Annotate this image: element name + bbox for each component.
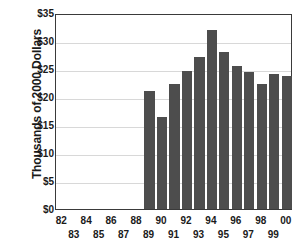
bar-slot: [143, 13, 155, 209]
bar[interactable]: [207, 30, 217, 209]
x-tick-label: 95: [211, 229, 235, 240]
x-tick-label: 94: [199, 215, 223, 226]
bar[interactable]: [257, 84, 267, 209]
x-tick-label: 98: [249, 215, 273, 226]
x-tick-label: 86: [99, 215, 123, 226]
x-tick-label: 97: [236, 229, 260, 240]
bar-slot: [206, 13, 218, 209]
bar-slot: [168, 13, 180, 209]
x-tick-label: 89: [137, 229, 161, 240]
bar-slot: [193, 13, 205, 209]
x-tick-label: 92: [174, 215, 198, 226]
x-tick-label: 96: [224, 215, 248, 226]
x-axis-tick-labels: 82838485868788899091929394959697989900: [55, 212, 292, 249]
bar-slot: [56, 13, 68, 209]
bar[interactable]: [219, 52, 229, 209]
bar-slot: [118, 13, 130, 209]
bar-slot: [256, 13, 268, 209]
bar[interactable]: [194, 57, 204, 209]
bar-slot: [231, 13, 243, 209]
bar-slot: [156, 13, 168, 209]
bar[interactable]: [169, 84, 179, 209]
x-tick-label: 99: [261, 229, 285, 240]
x-tick-label: 82: [49, 215, 73, 226]
x-tick-label: 91: [162, 229, 186, 240]
y-tick-label: $20: [14, 93, 54, 103]
bar-slot: [268, 13, 280, 209]
bar[interactable]: [157, 117, 167, 209]
bar-slot: [281, 13, 293, 209]
x-tick-label: 93: [186, 229, 210, 240]
x-tick-label: 85: [87, 229, 111, 240]
bar-slot: [93, 13, 105, 209]
bar-slot: [106, 13, 118, 209]
y-tick-label: $25: [14, 65, 54, 75]
bar-slot: [131, 13, 143, 209]
bar-slot: [181, 13, 193, 209]
y-tick-label: $5: [14, 177, 54, 187]
y-tick-label: $0: [14, 205, 54, 215]
y-axis-tick-labels: $0$5$10$15$20$25$30$35: [14, 0, 54, 249]
bar-slot: [218, 13, 230, 209]
bar[interactable]: [232, 66, 242, 209]
x-tick-label: 90: [149, 215, 173, 226]
bar[interactable]: [282, 76, 292, 209]
y-tick-label: $35: [14, 9, 54, 19]
x-tick-label: 88: [124, 215, 148, 226]
bar[interactable]: [182, 71, 192, 209]
x-tick-label: 87: [112, 229, 136, 240]
bar-chart: Thousands of 2000 Dollars $0$5$10$15$20$…: [0, 0, 301, 249]
y-tick-label: $15: [14, 121, 54, 131]
bar-slot: [243, 13, 255, 209]
x-tick-label: 84: [74, 215, 98, 226]
x-tick-label: 83: [62, 229, 86, 240]
plot-area: [55, 14, 292, 210]
bar[interactable]: [269, 74, 279, 209]
bar-slot: [81, 13, 93, 209]
bar-slot: [68, 13, 80, 209]
bar[interactable]: [144, 91, 154, 209]
bars-layer: [56, 15, 291, 209]
y-tick-label: $30: [14, 37, 54, 47]
x-tick-label: 00: [274, 215, 298, 226]
y-tick-label: $10: [14, 149, 54, 159]
bar[interactable]: [244, 72, 254, 209]
